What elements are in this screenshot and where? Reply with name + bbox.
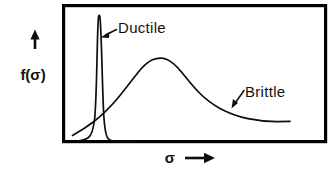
right-arrow-icon — [204, 153, 215, 163]
distribution-chart: Ductile Brittle f(σ) σ — [0, 0, 336, 172]
ductile-label: Ductile — [118, 19, 166, 36]
x-axis-label-group: σ — [165, 149, 215, 166]
up-arrow-icon — [30, 30, 39, 40]
brittle-label: Brittle — [245, 83, 285, 100]
x-axis-label: σ — [165, 149, 175, 166]
y-axis-label-group: f(σ) — [20, 30, 45, 84]
figure-container: Ductile Brittle f(σ) σ — [0, 0, 336, 172]
y-axis-label: f(σ) — [20, 66, 45, 83]
